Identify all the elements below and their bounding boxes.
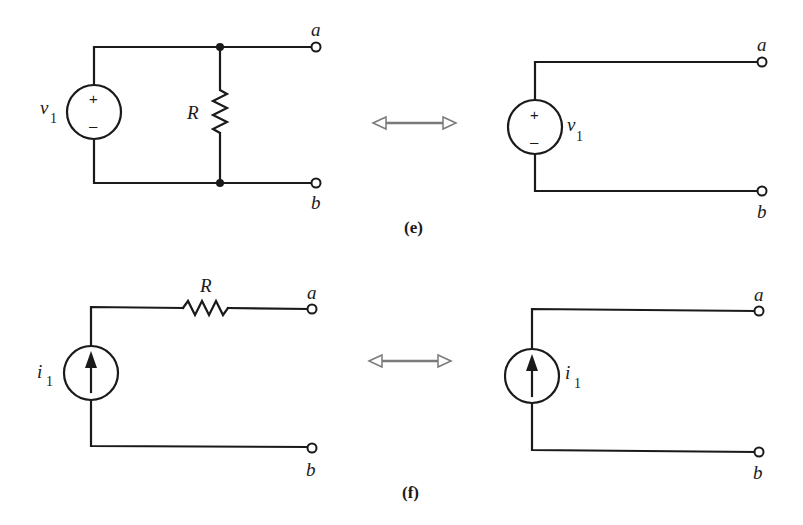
- panel-e-right-circuit: + – a b v 1: [508, 34, 767, 222]
- terminal-b-label: b: [757, 201, 767, 222]
- wire-top: [94, 47, 312, 85]
- wire-top: [91, 307, 183, 345]
- circuit-equivalence-figure: + – a b R v 1 + – a b v 1 (e): [0, 0, 803, 525]
- resistor-icon: [213, 47, 227, 183]
- wire-top: [535, 62, 758, 100]
- wire-bottom: [91, 400, 308, 447]
- source-subscript: 1: [50, 111, 57, 126]
- panel-e-left-circuit: + – a b R v 1: [40, 19, 321, 213]
- source-subscript: 1: [46, 374, 53, 389]
- caption-f: (f): [402, 483, 419, 502]
- panel-f-right-circuit: a b i 1: [505, 284, 764, 483]
- source-label: v: [40, 97, 49, 118]
- terminal-b-label: b: [306, 459, 316, 480]
- arrow-left-icon: [373, 117, 386, 129]
- equivalence-arrow-f: [369, 355, 451, 367]
- arrow-right-icon: [438, 355, 451, 367]
- minus-sign: –: [530, 133, 539, 150]
- resistor-label: R: [199, 275, 212, 296]
- wire-top-right: [228, 308, 308, 309]
- minus-sign: –: [89, 117, 98, 134]
- junction-dot-top: [216, 43, 224, 51]
- terminal-b-label: b: [311, 192, 321, 213]
- wire-bottom: [94, 139, 312, 183]
- panel-f-left-circuit: a b R i 1: [37, 275, 317, 480]
- arrow-left-icon: [369, 355, 382, 367]
- terminal-a-label: a: [754, 284, 764, 305]
- resistor-label: R: [186, 102, 199, 123]
- source-label: i: [565, 362, 570, 383]
- arrow-right-icon: [443, 117, 456, 129]
- wire-bottom: [535, 154, 758, 191]
- wire-bottom: [532, 404, 755, 452]
- source-label: i: [37, 361, 42, 382]
- terminal-a: [755, 307, 764, 316]
- resistor-icon: [183, 301, 228, 315]
- terminal-a: [758, 58, 767, 67]
- terminal-a-label: a: [757, 34, 767, 55]
- source-label: v: [567, 114, 576, 135]
- terminal-a: [308, 305, 317, 314]
- terminal-b: [758, 187, 767, 196]
- source-subscript: 1: [576, 129, 583, 144]
- caption-e: (e): [404, 218, 423, 237]
- terminal-b: [312, 179, 321, 188]
- junction-dot-bottom: [216, 179, 224, 187]
- terminal-b-label: b: [753, 462, 763, 483]
- wire-top: [532, 309, 755, 349]
- plus-sign: +: [89, 90, 98, 107]
- equivalence-arrow-e: [373, 117, 456, 129]
- terminal-b: [308, 444, 317, 453]
- plus-sign: +: [530, 106, 539, 123]
- terminal-a: [312, 43, 321, 52]
- terminal-b: [755, 448, 764, 457]
- terminal-a-label: a: [311, 19, 321, 40]
- source-subscript: 1: [574, 376, 581, 391]
- terminal-a-label: a: [307, 282, 317, 303]
